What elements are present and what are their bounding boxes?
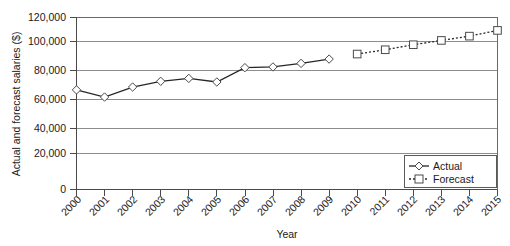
data-point-diamond [269,63,277,71]
data-point-diamond [185,74,193,82]
y-axis-tick-labels: 120,000 100,000 80,000 60,000 40,000 20,… [28,11,66,195]
series-forecast [353,27,501,58]
data-point-diamond [297,59,305,67]
y-tick-80000: 80,000 [34,64,66,76]
data-point-diamond [325,55,333,63]
y-axis-title: Actual and forecast salaries ($) [10,32,22,177]
y-tick-20000: 20,000 [34,147,66,159]
y-axis-title-text: Actual and forecast salaries ($) [10,32,22,177]
x-tick-2008: 2008 [282,193,307,218]
x-tick-2007: 2007 [254,193,279,218]
chart-canvas: Actual and forecast salaries ($) 120,000… [0,0,510,246]
data-point-square [381,46,389,54]
chart-legend[interactable]: Actual Forecast [405,156,497,188]
y-tick-100000: 100,000 [28,35,66,47]
x-tick-2015: 2015 [478,193,503,218]
series-line-forecast [357,30,497,54]
salary-forecast-chart: Actual and forecast salaries ($) 120,000… [0,0,510,246]
x-tick-2002: 2002 [114,193,139,218]
x-tick-2006: 2006 [226,193,251,218]
x-tick-2003: 2003 [142,193,167,218]
x-tick-2012: 2012 [394,193,419,218]
x-axis-tickmarks [77,190,498,196]
legend-label-actual: Actual [433,160,462,172]
square-marker-icon [415,175,423,183]
data-point-diamond [157,77,165,85]
x-tick-2010: 2010 [338,193,363,218]
x-tick-2000: 2000 [58,193,83,218]
x-tick-2005: 2005 [198,193,223,218]
x-tick-2014: 2014 [450,193,475,218]
data-point-square [410,41,418,49]
legend-label-forecast: Forecast [433,173,474,185]
data-point-square [438,37,446,45]
data-point-diamond [72,86,80,94]
x-tick-2009: 2009 [310,193,335,218]
data-point-square [353,50,361,58]
x-tick-2004: 2004 [170,193,195,218]
y-tick-0: 0 [60,183,66,195]
data-series-layer [72,27,501,102]
data-point-square [494,27,502,35]
y-tick-120000: 120,000 [28,11,66,23]
x-axis-title: Year [276,228,298,240]
y-tick-60000: 60,000 [34,93,66,105]
x-tick-2011: 2011 [367,193,392,218]
data-point-diamond [128,83,136,91]
data-point-square [466,32,474,40]
x-axis-tick-labels: 2000 2001 2002 2003 2004 2005 2006 2007 … [58,193,503,218]
series-line-actual [77,59,330,97]
series-actual [72,55,333,101]
data-point-diamond [213,78,221,86]
y-tick-40000: 40,000 [34,122,66,134]
x-tick-2001: 2001 [86,193,111,218]
x-tick-2013: 2013 [422,193,447,218]
y-axis-tickmarks [70,18,76,190]
